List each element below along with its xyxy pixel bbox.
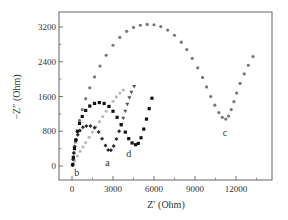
curve-label-a: a <box>105 157 110 168</box>
x-axis-title: Z′ (Ohm) <box>147 199 184 211</box>
impedance-chart: 0800160024003200 030006000900012000 bcad… <box>0 0 288 220</box>
curve-label-d: d <box>126 148 131 159</box>
curve-labels: bcad <box>74 127 228 177</box>
y-axis-title: −Z″ (Ohm) <box>11 74 23 119</box>
plot-frame <box>59 12 272 180</box>
series-c <box>71 23 254 166</box>
y-tick-label: 800 <box>43 126 57 136</box>
series-b <box>71 88 125 166</box>
y-tick-label: 2400 <box>38 57 57 67</box>
x-tick-label: 12000 <box>225 184 248 194</box>
y-tick-label: 1600 <box>38 92 57 102</box>
x-tick-label: 3000 <box>104 184 123 194</box>
series-d <box>71 97 153 167</box>
curve-label-c: c <box>223 127 228 138</box>
x-tick-label: 6000 <box>145 184 164 194</box>
curve-label-b: b <box>74 167 79 178</box>
plot-border <box>59 12 272 180</box>
x-tick-label: 0 <box>70 184 75 194</box>
series-a-tail <box>119 85 136 127</box>
y-tick-label: 3200 <box>38 22 57 32</box>
data-series <box>71 23 255 167</box>
x-axis: 030006000900012000 <box>70 176 257 194</box>
y-tick-label: 0 <box>52 161 57 171</box>
x-tick-label: 9000 <box>186 184 205 194</box>
y-axis: 0800160024003200 <box>38 22 63 171</box>
